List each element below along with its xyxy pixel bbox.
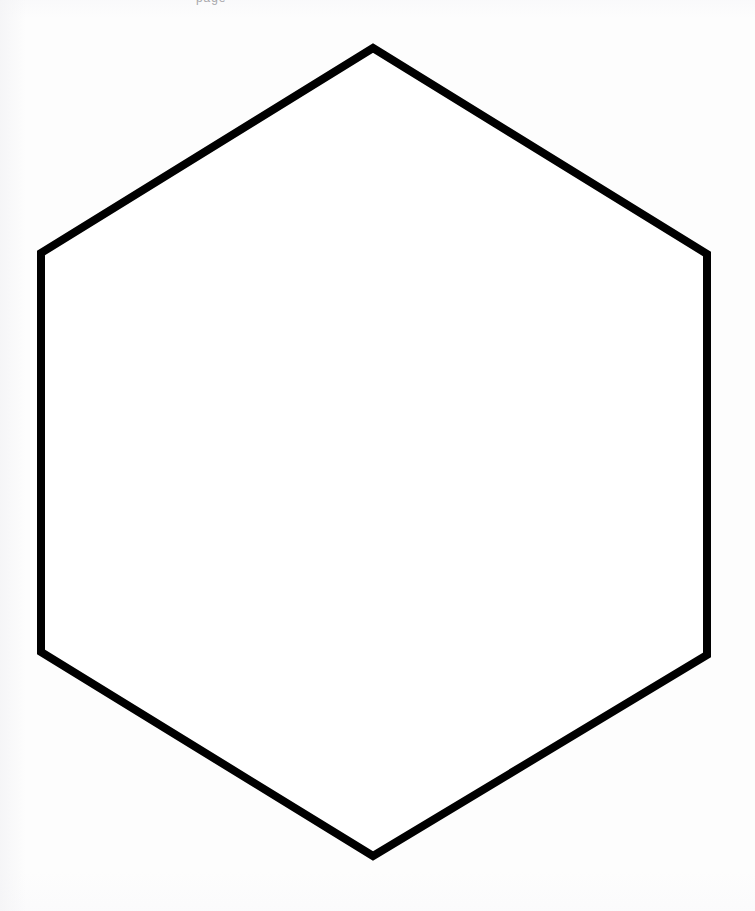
hexagon-shape: [41, 48, 707, 856]
document-page: page: [0, 0, 755, 911]
hexagon-figure: [0, 0, 755, 911]
hexagon-svg-canvas: [0, 0, 755, 911]
